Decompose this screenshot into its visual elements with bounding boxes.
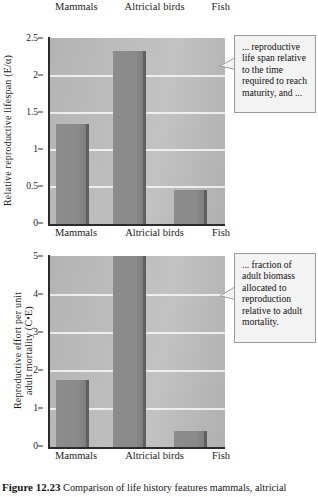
x-axis-line-top: [48, 224, 225, 226]
top-category-mammals: Mammals: [55, 1, 98, 12]
bar-fish-bottom: [174, 431, 207, 447]
figure-caption-label: Figure 12.23: [2, 481, 60, 493]
y-tick-label-1-5: 1.5: [26, 107, 38, 117]
x-label-mammals-top: Mammals: [55, 227, 97, 238]
top-category-fish: Fish: [211, 1, 230, 12]
plot-area-bottom: [50, 256, 225, 447]
y-tickmark-4: [38, 294, 43, 295]
bar-fish-top: [174, 190, 207, 224]
y-axis-label-top: Relative reproductive lifespan (E/α): [2, 42, 15, 220]
y-tickmark-5: [38, 256, 43, 257]
top-category-altricial-birds: Altricial birds: [125, 1, 185, 12]
y-tickmark-1: [38, 149, 43, 150]
y-axis-ticks-bottom: 5 4 3 2 1 0: [17, 252, 43, 452]
callout-top: ... reproductive life span relative to t…: [234, 35, 316, 113]
callout-bottom: ... fraction of adult biomass allocated …: [234, 253, 316, 343]
y-tickmark-2: [38, 75, 43, 76]
plot-area-top: [50, 38, 225, 224]
x-label-altricial-birds-bottom: Altricial birds: [125, 450, 184, 461]
x-label-altricial-birds-top: Altricial birds: [125, 227, 184, 238]
x-label-fish-bottom: Fish: [212, 450, 230, 461]
bar-mammals-bottom: [56, 380, 89, 447]
x-category-labels-top: Mammals Altricial birds Fish: [55, 227, 230, 242]
chart-panel-top: Relative reproductive lifespan (E/α) 2.5…: [0, 34, 318, 244]
x-label-fish-top: Fish: [212, 227, 230, 238]
y-tickmark-2-5: [38, 38, 43, 39]
top-category-strip: Mammals Altricial birds Fish: [55, 1, 230, 17]
y-tick-label-0-5: 0.5: [26, 181, 38, 191]
y-tickmark-0: [38, 223, 43, 224]
bar-mammals-top: [56, 124, 89, 224]
x-label-mammals-bottom: Mammals: [55, 450, 97, 461]
y-tick-label-2-5: 2.5: [26, 33, 38, 43]
y-tickmark-3: [38, 332, 43, 333]
bar-altricial-birds-top: [113, 51, 146, 224]
y-tickmark-1-5: [38, 112, 43, 113]
figure-caption-text: Comparison of life history features mamm…: [60, 482, 286, 493]
y-tickmark-0-5: [38, 186, 43, 187]
figure-12-23: Mammals Altricial birds Fish Relative re…: [0, 0, 318, 497]
y-tickmark-1: [38, 408, 43, 409]
y-axis-ticks-top: 2.5 2 1.5 1 0.5 0: [17, 34, 43, 224]
bar-altricial-birds-bottom: [113, 256, 146, 447]
x-category-labels-bottom: Mammals Altricial birds Fish: [55, 450, 230, 465]
x-axis-line-bottom: [48, 447, 225, 449]
chart-panel-bottom: Reproductive effort per unit adult morta…: [0, 252, 318, 480]
figure-caption: Figure 12.23 Comparison of life history …: [2, 481, 316, 494]
y-tickmark-2: [38, 370, 43, 371]
y-tickmark-0-bottom: [38, 446, 43, 447]
